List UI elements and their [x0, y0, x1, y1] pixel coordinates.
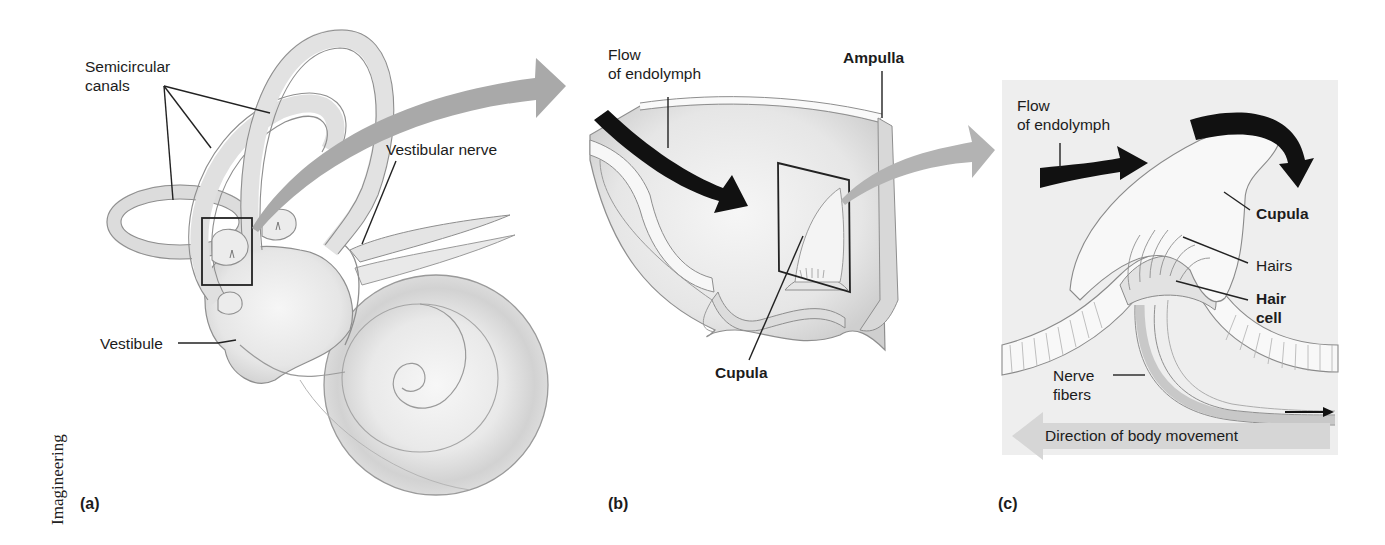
label-semicircular-line1: Semicircular	[85, 57, 170, 76]
label-semicircular-canals: Semicircular canals	[85, 57, 170, 95]
label-semicircular-line2: canals	[85, 76, 170, 95]
label-flow-endolymph-b: Flow of endolymph	[608, 45, 701, 83]
label-hair-cell: Hair cell	[1256, 289, 1286, 327]
label-cupula-c: Cupula	[1256, 204, 1309, 223]
label-flow-c-line2: of endolymph	[1017, 115, 1110, 134]
label-flow-endolymph-c: Flow of endolymph	[1017, 96, 1110, 134]
image-credit: Imagineering	[48, 434, 68, 525]
label-hair-cell-line2: cell	[1256, 308, 1286, 327]
panel-letter-a: (a)	[80, 495, 100, 513]
label-direction-of-body-movement: Direction of body movement	[1045, 427, 1238, 445]
label-nerve-fibers: Nerve fibers	[1053, 366, 1094, 404]
panel-b-artwork	[590, 71, 898, 360]
label-ampulla: Ampulla	[843, 48, 904, 67]
label-hair-cell-line1: Hair	[1256, 289, 1286, 308]
label-hairs: Hairs	[1256, 256, 1292, 275]
label-nerve-line1: Nerve	[1053, 366, 1094, 385]
panel-letter-b: (b)	[608, 495, 628, 513]
panel-letter-c: (c)	[998, 495, 1018, 513]
label-flow-c-line1: Flow	[1017, 96, 1110, 115]
label-nerve-line2: fibers	[1053, 385, 1094, 404]
label-cupula-b: Cupula	[715, 363, 768, 382]
label-vestibule: Vestibule	[100, 334, 163, 353]
label-flow-b-line2: of endolymph	[608, 64, 701, 83]
label-vestibular-nerve: Vestibular nerve	[386, 140, 497, 159]
label-flow-b-line1: Flow	[608, 45, 701, 64]
